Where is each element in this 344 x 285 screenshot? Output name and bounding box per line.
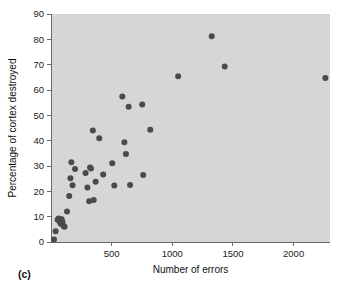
data-point	[62, 224, 68, 230]
y-tick-label: 90	[33, 8, 44, 19]
y-tick-label: 50	[33, 110, 44, 121]
y-tick-label: 70	[33, 59, 44, 70]
data-point	[209, 33, 215, 39]
figure-panel: 0102030405060708090 500100015002000 Numb…	[0, 0, 344, 285]
data-point	[100, 172, 106, 178]
scatter-plot: 0102030405060708090 500100015002000 Numb…	[0, 0, 344, 285]
x-tick-label: 2000	[283, 248, 304, 259]
data-point	[83, 170, 89, 176]
x-tick-label: 500	[104, 248, 120, 259]
data-point	[84, 185, 90, 191]
data-point	[68, 159, 74, 165]
data-point	[88, 166, 94, 172]
data-point	[126, 104, 132, 110]
y-tick-label: 10	[33, 211, 44, 222]
data-point	[119, 94, 125, 100]
data-point	[93, 179, 99, 185]
data-point	[72, 166, 78, 172]
x-tick-label: 1000	[162, 248, 183, 259]
x-axis-title: Number of errors	[153, 264, 229, 275]
data-point	[70, 182, 76, 188]
data-point	[175, 73, 181, 79]
data-point	[140, 172, 146, 178]
data-point	[90, 128, 96, 134]
y-axis-ticks: 0102030405060708090	[33, 8, 51, 247]
data-point	[51, 236, 57, 242]
data-point	[222, 63, 228, 69]
x-axis-ticks: 500100015002000	[104, 242, 304, 259]
y-tick-label: 80	[33, 34, 44, 45]
data-point	[147, 127, 153, 133]
panel-label: (c)	[18, 268, 31, 280]
data-point	[127, 182, 133, 188]
data-point	[67, 175, 73, 181]
y-tick-label: 0	[39, 236, 44, 247]
data-point	[91, 197, 97, 203]
y-tick-label: 40	[33, 135, 44, 146]
y-tick-label: 30	[33, 160, 44, 171]
data-point	[123, 151, 129, 157]
data-point	[121, 139, 127, 145]
y-axis-title: Percentage of cortex destroyed	[7, 59, 18, 198]
data-point	[64, 209, 70, 215]
data-point	[139, 101, 145, 107]
data-point	[109, 160, 115, 166]
y-tick-label: 20	[33, 186, 44, 197]
x-tick-label: 1500	[222, 248, 243, 259]
data-point	[66, 193, 72, 199]
data-point	[96, 135, 102, 141]
data-point	[111, 183, 117, 189]
data-point	[322, 75, 328, 81]
data-point	[53, 228, 59, 234]
y-tick-label: 60	[33, 84, 44, 95]
